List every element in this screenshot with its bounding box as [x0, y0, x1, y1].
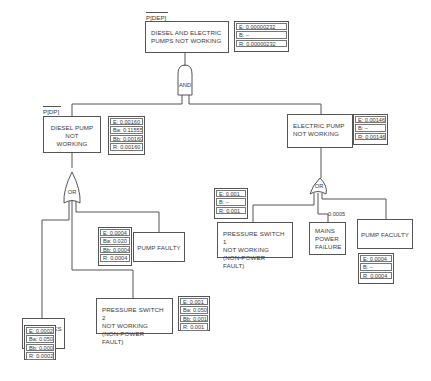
electric-pump-label: ELECTRIC PUMP NOT WORKING: [288, 122, 352, 138]
mains-power-failure-value: 0.0005: [328, 211, 345, 217]
prob-ba: Ba: 0.020: [100, 237, 130, 244]
pump-faculty-box: PUMP FACULTY: [357, 219, 413, 249]
pressure-switch-2-label: PRESSURE SWITCH 2 NOT WORKING (NON-POWER…: [97, 306, 172, 346]
prob-ba: Ba: 0.050: [26, 335, 54, 342]
prob-b: B: –: [360, 263, 392, 270]
pump-faulty-label: PUMP FAULTY: [134, 244, 184, 252]
prob-r: R: 0.0002: [26, 352, 54, 359]
prob-r: R: 0.0004: [100, 254, 130, 261]
prob-e: E: 0.0004: [360, 255, 392, 262]
prob-bb: Bb: 0.00160: [110, 135, 143, 142]
prob-ba: Ba: 0.11555: [110, 126, 143, 133]
prob-r: R: 0.00160: [110, 143, 143, 150]
electric-pump-box: ELECTRIC PUMP NOT WORKING: [287, 114, 353, 148]
prob-bb: Bb: 0.0004: [100, 246, 130, 253]
prob-e: E: 0.0002: [26, 327, 54, 334]
electric-pump-probabilities: E: 0.00146 B: – R: 0.00146: [353, 114, 388, 145]
and-gate-label: AND: [178, 82, 192, 88]
electric-or-gate-label: OR: [312, 183, 326, 189]
pressure-switch-2-probabilities: E: 0.001 Ba: 0.050 Bb: 0.001 R: 0.001: [178, 296, 210, 331]
pressure-switch-1-box: PRESSURE SWITCH 1 NOT WORKING (NON-POWER…: [217, 222, 293, 258]
prob-r: R: 0.001: [216, 207, 246, 214]
diesel-or-gate-label: OR: [64, 189, 80, 195]
prob-e: E: 0.001: [216, 190, 246, 197]
pump-faulty-box: PUMP FAULTY: [133, 232, 185, 262]
fault-tree-diagram: P[DEP] DIESEL AND ELECTRIC PUMPS NOT WOR…: [0, 0, 431, 381]
prob-r: R: 0.0004: [360, 272, 392, 279]
prob-e: E: 0.001: [180, 298, 208, 305]
prob-b: B: –: [355, 124, 386, 131]
prob-e: E: 0.00160: [110, 118, 143, 125]
pressure-switch-1-probabilities: E: 0.001 B: – R: 0.001: [214, 188, 248, 219]
prob-r: R: 0.00000232: [236, 40, 287, 47]
prob-e: E: 0.00146: [355, 116, 386, 123]
top-event-box: DIESEL AND ELECTRIC PUMPS NOT WORKING: [145, 21, 229, 53]
mains-power-failure-box: MAINS POWER FAILURE: [309, 222, 346, 255]
prob-r: R: 0.00146: [355, 133, 386, 140]
batteries-flat-probabilities-table: E: 0.0002 Ba: 0.050 Bb: 0.0002 R: 0.0002: [24, 325, 56, 360]
prob-ba: Ba: 0.050: [180, 306, 208, 313]
diesel-pump-box: DIESEL PUMP NOT WORKING: [43, 116, 101, 153]
diesel-pump-label: DIESEL PUMP NOT WORKING: [44, 124, 100, 148]
pressure-switch-1-label: PRESSURE SWITCH 1 NOT WORKING (NON-POWER…: [218, 230, 292, 270]
prob-bb: Bb: 0.001: [180, 315, 208, 322]
pump-faculty-probabilities: E: 0.0004 B: – R: 0.0004: [358, 253, 394, 284]
prob-b: B: –: [216, 198, 246, 205]
prob-e: E: 0.0004: [100, 229, 130, 236]
prob-r: R: 0.001: [180, 323, 208, 330]
prob-b: B: –: [236, 31, 287, 38]
top-event-probabilities: E: 0.00000232 B: – R: 0.00000232: [234, 21, 289, 52]
prob-bb: Bb: 0.0002: [26, 344, 54, 351]
pressure-switch-2-box: PRESSURE SWITCH 2 NOT WORKING (NON-POWER…: [96, 298, 173, 334]
diesel-pump-tag: P[DP]: [43, 108, 59, 115]
top-event-tag-text: P[DEP]: [146, 14, 166, 21]
diesel-or-gate-shape: [64, 172, 80, 203]
pump-faulty-probabilities: E: 0.0004 Ba: 0.020 Bb: 0.0004 R: 0.0004: [98, 227, 132, 266]
prob-e: E: 0.00000232: [236, 23, 287, 30]
pump-faculty-label: PUMP FACULTY: [358, 231, 412, 239]
and-gate-shape: [178, 65, 192, 95]
diesel-pump-tag-text: P[DP]: [43, 108, 59, 115]
diesel-pump-probabilities: E: 0.00160 Ba: 0.11555 Bb: 0.00160 R: 0.…: [108, 116, 145, 155]
mains-power-failure-label: MAINS POWER FAILURE: [310, 227, 345, 251]
top-event-tag: P[DEP]: [146, 14, 166, 21]
top-event-label: DIESEL AND ELECTRIC PUMPS NOT WORKING: [146, 29, 228, 45]
